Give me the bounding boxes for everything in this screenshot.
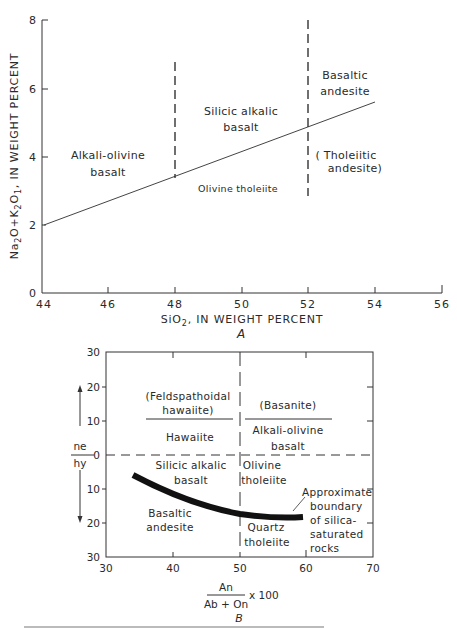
x-tick-label: 44 bbox=[36, 298, 52, 311]
ne-hy-axis-annotation: ne hy bbox=[71, 385, 94, 523]
region-label-olivine-tholeiite: Olivine bbox=[243, 459, 281, 471]
annotation-text: Approximate bbox=[302, 486, 372, 498]
region-label-alkali-olivine-basalt: basalt bbox=[271, 440, 305, 452]
chart-a-x-axis-title: SiO2, IN WEIGHT PERCENT bbox=[161, 313, 324, 328]
region-label-basanite: (Basanite) bbox=[260, 399, 317, 411]
ne-label: ne bbox=[73, 440, 86, 452]
x-tick-label: 50 bbox=[234, 298, 250, 311]
x-label-suffix: x 100 bbox=[249, 589, 279, 601]
up-arrowhead-icon bbox=[78, 385, 83, 392]
region-label-tholeiitic-andesite: andesite) bbox=[328, 162, 382, 175]
chart-b-x-tick-labels: 30 40 50 60 70 bbox=[99, 562, 379, 574]
region-label-basaltic-andesite: andesite bbox=[320, 85, 370, 98]
x-tick-label: 56 bbox=[434, 298, 450, 311]
region-label-basaltic-andesite: andesite bbox=[146, 521, 194, 533]
chart-a-y-axis-title: Na2O+K2O1, IN WEIGHT PERCENT bbox=[8, 53, 23, 260]
x-tick-label: 40 bbox=[166, 562, 179, 574]
annotation-text: saturated bbox=[310, 528, 363, 540]
region-label-silicic-alkalic-basalt: Silicic alkalic bbox=[155, 459, 226, 471]
figure: 8 6 4 2 0 44 46 48 50 52 54 56 SiO2, IN … bbox=[0, 0, 457, 628]
chart-a-x-ticks bbox=[108, 285, 442, 293]
x-tick-label: 48 bbox=[167, 298, 183, 311]
x-tick-label: 46 bbox=[100, 298, 116, 311]
x-tick-label: 52 bbox=[300, 298, 316, 311]
annotation-leader-line bbox=[293, 497, 305, 511]
chart-b-x-axis-title: An Ab + On x 100 bbox=[204, 581, 279, 610]
x-tick-label: 50 bbox=[233, 562, 246, 574]
region-label-silicic-alkalic-basalt: basalt bbox=[223, 121, 259, 134]
y-tick-label: 6 bbox=[29, 83, 36, 96]
y-tick-label: 8 bbox=[29, 14, 36, 27]
x-tick-label: 30 bbox=[99, 562, 112, 574]
y-tick-label: 20 bbox=[87, 381, 100, 393]
chart-a-x-tick-labels: 44 46 48 50 52 54 56 bbox=[36, 298, 450, 311]
region-label-alkali-olivine-basalt: Alkali-olivine bbox=[71, 149, 145, 162]
panel-b-caption: B bbox=[235, 612, 243, 625]
x-label-denominator: Ab + On bbox=[204, 598, 248, 610]
annotation-text: rocks bbox=[310, 542, 339, 554]
y-tick-label: 4 bbox=[29, 151, 36, 164]
chart-a-y-tick-labels: 8 6 4 2 0 bbox=[29, 14, 36, 300]
chart-a: 8 6 4 2 0 44 46 48 50 52 54 56 SiO2, IN … bbox=[8, 14, 450, 341]
y-tick-label: 20 bbox=[87, 517, 100, 529]
region-label-quartz-tholeiite: tholeiite bbox=[244, 536, 290, 548]
region-label-olivine-tholeiite: Olivine tholeiite bbox=[198, 183, 278, 194]
annotation-text: of silica- bbox=[310, 514, 357, 526]
y-tick-label: 10 bbox=[87, 483, 100, 495]
boundary-annotation: Approximate boundary of silica- saturate… bbox=[302, 486, 372, 554]
hy-label: hy bbox=[74, 457, 87, 469]
region-label-basaltic-andesite: Basaltic bbox=[148, 507, 192, 519]
region-label-feldspathoidal-hawaiite: hawaiite) bbox=[162, 404, 213, 416]
x-label-numerator: An bbox=[219, 581, 233, 593]
y-tick-label: 30 bbox=[87, 346, 100, 358]
down-arrowhead-icon bbox=[78, 516, 83, 523]
y-tick-label: 10 bbox=[87, 415, 100, 427]
region-label-silicic-alkalic-basalt: Silicic alkalic bbox=[204, 105, 278, 118]
chart-a-y-ticks bbox=[42, 20, 48, 225]
x-tick-label: 60 bbox=[299, 562, 312, 574]
region-label-olivine-tholeiite: tholeiite bbox=[241, 474, 287, 486]
y-tick-label: 0 bbox=[29, 287, 36, 300]
y-tick-label: 30 bbox=[87, 551, 100, 563]
region-label-alkali-olivine-basalt: Alkali-olivine bbox=[253, 424, 324, 436]
region-label-feldspathoidal-hawaiite: (Feldspathoidal bbox=[146, 390, 231, 402]
alkalic-tholeiitic-boundary-line bbox=[44, 102, 375, 225]
region-label-hawaiite: Hawaiite bbox=[166, 431, 214, 443]
region-label-tholeiitic-andesite: ( Tholeiitic bbox=[315, 149, 376, 162]
panel-a-caption: A bbox=[236, 327, 245, 341]
chart-b-y-ticks bbox=[102, 387, 106, 523]
y-tick-label: 2 bbox=[29, 219, 36, 232]
x-tick-label: 70 bbox=[366, 562, 379, 574]
region-label-silicic-alkalic-basalt: basalt bbox=[174, 474, 208, 486]
region-label-quartz-tholeiite: Quartz bbox=[247, 521, 284, 533]
x-tick-label: 54 bbox=[367, 298, 383, 311]
annotation-text: boundary bbox=[310, 500, 362, 512]
chart-b: 30 20 10 0 10 20 30 30 40 50 60 70 ne hy bbox=[71, 346, 380, 625]
region-label-alkali-olivine-basalt: basalt bbox=[90, 166, 126, 179]
y-tick-label: 0 bbox=[93, 449, 100, 461]
region-label-basaltic-andesite: Basaltic bbox=[322, 69, 368, 82]
